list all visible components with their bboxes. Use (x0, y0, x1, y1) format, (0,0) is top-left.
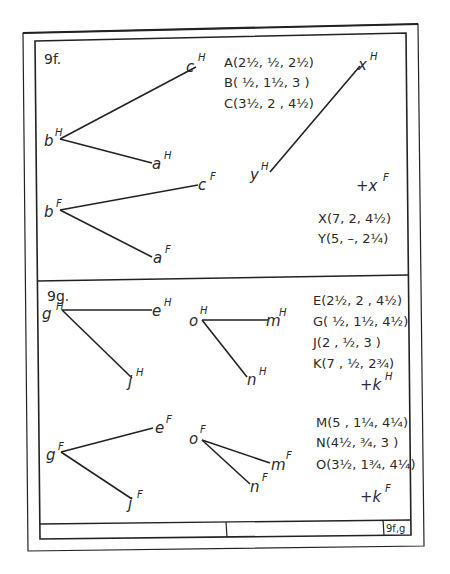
lines-omn-top-view: o H m H n H (189, 305, 287, 389)
svg-text:g: g (42, 305, 52, 323)
points-egjk-coordinates: E(2½, 2 , 4½) G( ½, 1½, 4½) J(2 , ½, 3 )… (312, 293, 408, 371)
points-mno-coordinates: M(5 , 1¼, 4¼) N(4½, ¾, 3 ) O(3½, 1¾, 4¼) (316, 415, 416, 472)
svg-text:m: m (271, 456, 286, 474)
svg-text:H: H (261, 161, 269, 172)
svg-text:j: j (126, 495, 133, 513)
triangle-abc-top-view: b H c H a H (44, 52, 206, 173)
svg-text:b: b (44, 203, 54, 221)
svg-text:N(4½, ¾, 3 ): N(4½, ¾, 3 ) (316, 435, 398, 450)
lines-gej-front-view: g F e F j F (46, 414, 172, 513)
svg-text:e: e (155, 419, 164, 437)
line-xy-top-view: x H y H (249, 51, 378, 184)
svg-text:F: F (166, 414, 172, 425)
problem-9f-title: 9f. (44, 51, 61, 67)
svg-text:C(3½, 2 , 4½): C(3½, 2 , 4½) (224, 96, 314, 111)
svg-text:H: H (164, 150, 172, 161)
svg-text:n: n (250, 478, 260, 496)
svg-text:H: H (55, 127, 63, 138)
svg-text:F: F (262, 472, 268, 483)
drawing-sheet: 9f,g 9f. b H c H a H b F c F a F A(2½, ½… (0, 0, 450, 574)
svg-text:H: H (198, 52, 206, 63)
svg-text:y: y (249, 166, 260, 184)
triangle-abc-front-view: b F c F a F (44, 171, 216, 267)
lines-gej-top-view: g H e H j H (42, 297, 172, 391)
svg-text:b: b (44, 132, 54, 150)
point-k-front: +k (360, 488, 383, 506)
svg-text:c: c (186, 58, 195, 76)
svg-text:a: a (152, 155, 161, 173)
svg-text:n: n (247, 371, 257, 389)
svg-text:F: F (286, 450, 292, 461)
lines-omn-front-view: o F m F n F (189, 424, 292, 496)
svg-text:M(5 , 1¼, 4¼): M(5 , 1¼, 4¼) (316, 415, 408, 430)
svg-text:H: H (136, 367, 144, 378)
points-abc-coordinates: A(2½, ½, 2½) B( ½, 1½, 3 ) C(3½, 2 , 4½) (224, 55, 314, 111)
svg-text:F: F (58, 441, 64, 452)
svg-text:K(7 , ½, 2¾): K(7 , ½, 2¾) (313, 356, 394, 371)
svg-text:F: F (165, 244, 171, 255)
point-x-front: +x (356, 177, 378, 195)
svg-text:Y(5, –, 2¼): Y(5, –, 2¼) (317, 231, 388, 246)
svg-text:H: H (259, 366, 267, 377)
svg-text:j: j (126, 373, 133, 391)
svg-text:H: H (200, 305, 208, 316)
svg-text:H: H (164, 297, 172, 308)
svg-text:B( ½, 1½, 3 ): B( ½, 1½, 3 ) (224, 75, 310, 90)
svg-text:F: F (56, 198, 62, 209)
point-k-top-sup: H (385, 371, 393, 382)
svg-text:F: F (200, 424, 206, 435)
svg-text:o: o (189, 312, 198, 330)
svg-text:H: H (279, 307, 287, 318)
point-k-front-sup: F (385, 483, 391, 494)
svg-text:H: H (56, 301, 64, 312)
svg-text:J(2 , ½, 3 ): J(2 , ½, 3 ) (312, 335, 381, 350)
svg-text:A(2½, ½, 2½): A(2½, ½, 2½) (224, 55, 314, 70)
sheet-number-box (383, 520, 384, 535)
svg-text:a: a (153, 249, 162, 267)
svg-text:g: g (46, 446, 56, 464)
svg-text:e: e (152, 302, 161, 320)
sheet-number: 9f,g (386, 523, 405, 534)
point-x-front-sup: F (383, 172, 389, 183)
svg-text:x: x (357, 56, 367, 74)
title-block-divider (226, 522, 227, 537)
svg-text:O(3½, 1¾, 4¼): O(3½, 1¾, 4¼) (316, 457, 416, 472)
svg-text:o: o (189, 430, 198, 448)
svg-text:c: c (198, 176, 207, 194)
svg-text:X(7, 2, 4½): X(7, 2, 4½) (318, 211, 391, 226)
section-divider (37, 275, 408, 281)
svg-text:F: F (137, 489, 143, 500)
svg-text:F: F (210, 171, 216, 182)
svg-text:E(2½, 2 , 4½): E(2½, 2 , 4½) (313, 293, 402, 308)
outer-border-top-heavy (23, 24, 418, 33)
points-xy-coordinates: X(7, 2, 4½) Y(5, –, 2¼) (317, 211, 391, 246)
svg-text:H: H (370, 51, 378, 62)
svg-text:G( ½, 1½, 4½): G( ½, 1½, 4½) (313, 314, 408, 329)
point-k-top: +k (360, 376, 383, 394)
